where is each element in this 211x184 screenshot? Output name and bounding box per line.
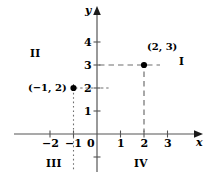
coordinate-plane-figure: y x −2 −1 0 1 2 3 1 2 3 4 (−1, 2) (2, 3)… xyxy=(0,0,211,184)
data-points xyxy=(70,62,147,91)
guides-point-2 xyxy=(99,62,160,132)
point-marker-2-3[interactable] xyxy=(141,62,147,68)
quadrant-label-2: II xyxy=(30,48,40,59)
y-axis-label: y xyxy=(85,5,91,16)
y-tick-label-4: 4 xyxy=(84,37,92,48)
point-label-2-3: (2, 3) xyxy=(147,42,177,52)
guides-point-1 xyxy=(74,84,111,170)
y-tick-label-2: 2 xyxy=(84,83,92,94)
x-axis-label: x xyxy=(196,137,203,148)
x-tick-label--2: −2 xyxy=(42,138,59,149)
point-label--1-2: (−1, 2) xyxy=(28,83,67,93)
y-tick-label-3: 3 xyxy=(84,60,92,71)
x-tick-label-1: 1 xyxy=(117,138,125,149)
x-tick-label--1: −1 xyxy=(65,138,82,149)
x-tick-label-0: 0 xyxy=(87,138,95,149)
y-axis-arrowhead xyxy=(93,6,101,15)
quadrant-label-4: IV xyxy=(134,158,148,169)
point-marker--1-2[interactable] xyxy=(70,85,76,91)
quadrant-label-1: I xyxy=(179,56,184,67)
quadrant-label-3: III xyxy=(46,158,62,169)
y-tick-label-1: 1 xyxy=(84,106,92,117)
x-tick-label-2: 2 xyxy=(141,138,149,149)
x-tick-label-3: 3 xyxy=(164,138,172,149)
